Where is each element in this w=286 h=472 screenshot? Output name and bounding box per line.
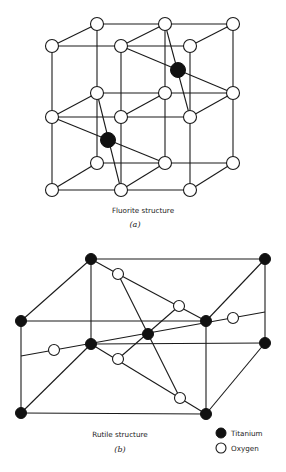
rutile-titanium-atoms	[16, 254, 271, 420]
fluorite-structure-diagram: Fluorite structure (a)	[46, 18, 240, 230]
fluorite-label: (a)	[129, 220, 140, 229]
legend-titanium-label: Titanium	[230, 429, 263, 438]
legend-oxygen-label: Oxygen	[231, 444, 259, 453]
rutile-label: (b)	[114, 445, 125, 454]
legend: Titanium Oxygen	[216, 428, 263, 453]
rutile-caption: Rutile structure	[92, 430, 148, 439]
fluorite-caption: Fluorite structure	[112, 206, 175, 215]
oxygen-marker-icon	[216, 443, 226, 453]
titanium-marker-icon	[216, 428, 226, 438]
crystal-structures-figure: Fluorite structure (a)	[0, 0, 286, 472]
fluorite-anion-atoms	[46, 18, 240, 197]
rutile-structure-diagram: Rutile structure (b)	[16, 254, 271, 455]
fluorite-edges	[52, 24, 233, 190]
